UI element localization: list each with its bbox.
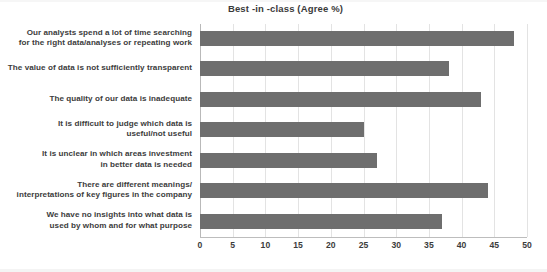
bar[interactable] <box>200 183 488 198</box>
x-tick-label-35: 35 <box>424 240 434 250</box>
category-label: There are different meanings/interpretat… <box>0 180 192 201</box>
category-label-line: used by whom and for what purpose <box>0 221 192 232</box>
bar-row <box>200 115 527 145</box>
bar[interactable] <box>200 122 364 137</box>
bar-row <box>200 176 527 206</box>
bar[interactable] <box>200 61 449 76</box>
category-label-line: The quality of our data is inadequate <box>0 94 192 105</box>
bar-row <box>200 207 527 237</box>
category-label: The value of data is not sufficiently tr… <box>0 63 192 74</box>
category-label: It is difficult to judge which data isus… <box>0 119 192 140</box>
x-tick-label-10: 10 <box>261 240 271 250</box>
x-tick-label-5: 5 <box>230 240 235 250</box>
bar-row <box>200 85 527 115</box>
chart-title: Best -in -class (Agree %) <box>0 3 547 14</box>
x-tick-label-15: 15 <box>293 240 303 250</box>
category-label: The quality of our data is inadequate <box>0 94 192 105</box>
x-tick-label-45: 45 <box>490 240 500 250</box>
bars-layer <box>200 24 527 237</box>
category-label-line: for the right data/analyses or repeating… <box>0 38 192 49</box>
category-label-line: interpretations of key figures in the co… <box>0 190 192 201</box>
category-label-line: in better data is needed <box>0 160 192 171</box>
category-label-line: We have no insights into what data is <box>0 210 192 221</box>
x-tick-label-25: 25 <box>359 240 369 250</box>
bar[interactable] <box>200 214 442 229</box>
category-label: Our analysts spend a lot of time searchi… <box>0 28 192 49</box>
x-axis-line <box>200 237 527 238</box>
category-label-line: useful/not useful <box>0 129 192 140</box>
category-label-line: It is difficult to judge which data is <box>0 119 192 130</box>
bar[interactable] <box>200 153 377 168</box>
x-tick-label-0: 0 <box>198 240 203 250</box>
gridline-50 <box>527 24 528 237</box>
category-axis-labels: Our analysts spend a lot of time searchi… <box>0 24 196 237</box>
scan-edge-top <box>0 0 547 2</box>
x-tick-label-40: 40 <box>457 240 467 250</box>
bar-row <box>200 24 527 54</box>
category-label-line: There are different meanings/ <box>0 180 192 191</box>
category-label-line: The value of data is not sufficiently tr… <box>0 63 192 74</box>
bar[interactable] <box>200 31 514 46</box>
plot-area <box>200 24 527 237</box>
bar-chart: Best -in -class (Agree %) Our analysts s… <box>0 0 547 272</box>
x-tick-label-20: 20 <box>326 240 336 250</box>
x-axis-tick-labels: 05101520253035404550 <box>200 240 527 256</box>
x-tick-label-30: 30 <box>391 240 401 250</box>
category-label-line: Our analysts spend a lot of time searchi… <box>0 28 192 39</box>
category-label: It is unclear in which areas investmenti… <box>0 149 192 170</box>
bar-row <box>200 146 527 176</box>
bar-row <box>200 54 527 84</box>
bar[interactable] <box>200 92 481 107</box>
category-label-line: It is unclear in which areas investment <box>0 149 192 160</box>
category-label: We have no insights into what data isuse… <box>0 210 192 231</box>
x-tick-label-50: 50 <box>522 240 532 250</box>
